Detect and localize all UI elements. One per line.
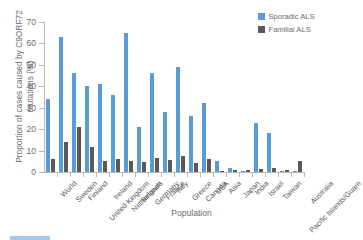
bar-group [278, 22, 291, 172]
bar-familial [129, 161, 133, 172]
legend-item-sporadic: Sporadic ALS [258, 11, 315, 22]
x-axis-tick [265, 173, 266, 177]
bar-sporadic [176, 67, 180, 172]
bar-group [161, 22, 174, 172]
bar-group [122, 22, 135, 172]
x-axis-tick [135, 173, 136, 177]
bar-sporadic [293, 171, 297, 173]
bar-sporadic [228, 168, 232, 172]
bar-group [135, 22, 148, 172]
x-axis-title-text: Population [147, 208, 212, 218]
y-axis-tick-label: 30 [26, 103, 39, 113]
bar-group [291, 22, 304, 172]
legend-swatch-familial [258, 26, 265, 33]
x-axis-tick [239, 173, 240, 177]
bar-familial [168, 160, 172, 172]
bar-familial [116, 159, 120, 172]
bar-sporadic [111, 95, 115, 172]
bar-familial [272, 168, 276, 172]
bar-sporadic [59, 37, 63, 172]
bar-sporadic [72, 73, 76, 172]
bar-familial [181, 156, 185, 172]
x-axis-tick [109, 173, 110, 177]
bar-sporadic [137, 127, 141, 172]
y-axis-tick-label: 20 [26, 124, 39, 134]
bar-familial [90, 147, 94, 172]
x-axis-tick [291, 173, 292, 177]
bar-group [265, 22, 278, 172]
footer-strip [10, 236, 310, 240]
bar-group [174, 22, 187, 172]
y-axis-tick-label: 70 [26, 17, 39, 27]
bar-sporadic [280, 171, 284, 172]
bar-group [96, 22, 109, 172]
bar-sporadic [98, 84, 102, 172]
bar-sporadic [202, 103, 206, 172]
y-axis-tick: 0 [39, 172, 44, 173]
y-axis-tick-label: 40 [26, 81, 39, 91]
bar-familial [298, 161, 302, 172]
chart-legend: Sporadic ALS Familial ALS [258, 11, 315, 37]
bar-sporadic [189, 116, 193, 172]
bar-sporadic [267, 133, 271, 172]
bar-sporadic [124, 33, 128, 172]
bar-group [148, 22, 161, 172]
x-axis-tick [83, 173, 84, 177]
bar-group [109, 22, 122, 172]
bar-familial [194, 163, 198, 172]
bar-familial [142, 162, 146, 172]
y-axis-tick-label: 10 [26, 146, 39, 156]
bar-group [200, 22, 213, 172]
y-axis-tick-label: 60 [26, 38, 39, 48]
y-axis-tick-label: 50 [26, 60, 39, 70]
x-axis-category-label: Taiwan [281, 179, 304, 202]
bar-group [239, 22, 252, 172]
x-axis-tick [226, 173, 227, 177]
legend-item-familial: Familial ALS [258, 24, 315, 35]
bar-familial [64, 142, 68, 172]
bar-group [44, 22, 57, 172]
bar-sporadic [163, 112, 167, 172]
x-axis-tick [161, 173, 162, 177]
x-axis-tick [57, 173, 58, 177]
footer-swatch [10, 236, 50, 240]
x-axis-tick [148, 173, 149, 177]
legend-label-sporadic: Sporadic ALS [269, 12, 315, 21]
x-axis-tick [70, 173, 71, 177]
bar-familial [233, 170, 237, 172]
plot-area [44, 22, 304, 172]
x-axis-tick [96, 173, 97, 177]
y-axis-tick-label: 0 [31, 167, 39, 177]
x-axis-category-label: Pacific Islands/Guam [308, 179, 363, 234]
bar-familial [155, 158, 159, 172]
x-axis-tick [174, 173, 175, 177]
legend-label-familial: Familial ALS [269, 25, 311, 34]
bar-group [252, 22, 265, 172]
x-axis-title: Population [0, 208, 359, 218]
bar-sporadic [254, 123, 258, 172]
bar-group [70, 22, 83, 172]
x-axis-tick [213, 173, 214, 177]
bar-group [187, 22, 200, 172]
bar-sporadic [241, 171, 245, 172]
x-axis-tick [304, 173, 305, 177]
bar-sporadic [46, 99, 50, 172]
bar-familial [246, 170, 250, 172]
bar-sporadic [215, 161, 219, 172]
x-axis-tick [187, 173, 188, 177]
bar-familial [259, 169, 263, 172]
bar-group [57, 22, 70, 172]
bar-familial [220, 171, 224, 173]
x-axis-tick [122, 173, 123, 177]
x-axis-tick [252, 173, 253, 177]
bar-familial [103, 161, 107, 172]
legend-swatch-sporadic [258, 13, 265, 20]
bar-sporadic [150, 73, 154, 172]
bar-group [226, 22, 239, 172]
bar-familial [207, 159, 211, 172]
x-axis-category-label: Australia [309, 179, 336, 206]
bar-group [83, 22, 96, 172]
bar-familial [51, 159, 55, 172]
bar-familial [77, 127, 81, 172]
